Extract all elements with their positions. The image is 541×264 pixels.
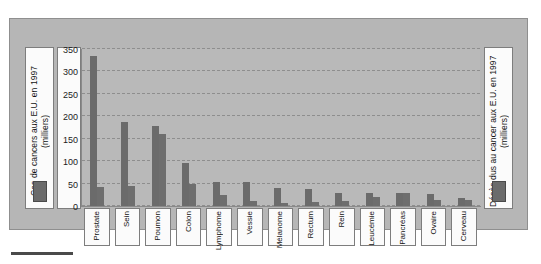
bar-cases <box>182 163 189 206</box>
bar-cases <box>305 189 312 206</box>
x-category-label-text: Rectum <box>306 211 316 239</box>
y-axis-tick-panel: 050100150200250300350 <box>57 47 81 209</box>
x-category-label-text: Colon <box>184 211 194 232</box>
y-tick-label: 100 <box>63 158 78 167</box>
bar-group <box>113 49 144 206</box>
x-category-label: Lymphome <box>206 208 232 246</box>
bar-deaths <box>220 195 227 206</box>
x-category-label: Rectum <box>298 208 324 246</box>
x-category-label-text: Leucémie <box>367 211 377 246</box>
bar-deaths <box>312 202 319 206</box>
bar-group <box>358 49 389 206</box>
legend-cases: Cas de cancers aux E.U. en 1997 (millier… <box>25 47 54 209</box>
bar-deaths <box>250 201 257 206</box>
bar-deaths <box>281 203 288 206</box>
x-category-label-text: Sein <box>122 211 132 227</box>
bar-cases <box>396 193 403 206</box>
bar-cases <box>243 182 250 206</box>
x-category-label-text: Pancréas <box>398 211 408 245</box>
y-tick-label: 200 <box>63 113 78 122</box>
bar-cases <box>458 198 465 206</box>
bar-deaths <box>342 201 349 206</box>
bar-deaths <box>373 197 380 206</box>
x-category-label: Prostate <box>84 208 110 246</box>
x-category-label: Leucémie <box>360 208 386 246</box>
chart-frame: 050100150200250300350 Cas de cancers aux… <box>9 18 528 230</box>
x-category-label-text: Cerveau <box>459 211 469 241</box>
x-category-label: Colon <box>176 208 202 246</box>
x-category-label: Sein <box>115 208 141 246</box>
bar-cases <box>121 122 128 206</box>
bar-group <box>82 49 113 206</box>
x-category-label-text: Rein <box>337 211 347 227</box>
bar-deaths <box>159 134 166 206</box>
y-tick-label: 250 <box>63 90 78 99</box>
x-category-label: Pancréas <box>390 208 416 246</box>
x-category-label: Cerveau <box>451 208 477 246</box>
bar-cases <box>90 56 97 206</box>
bar-group <box>143 49 174 206</box>
bar-cases <box>335 193 342 206</box>
bar-deaths <box>465 200 472 206</box>
bar-deaths <box>189 184 196 206</box>
x-axis-category-labels: ProstateSeinPoumonColonLymphomeVessieMél… <box>82 208 480 246</box>
bar-group <box>235 49 266 206</box>
x-category-label-text: Ovaire <box>429 211 439 235</box>
bar-group <box>449 49 480 206</box>
x-category-label: Ovaire <box>421 208 447 246</box>
y-tick-label: 0 <box>73 203 78 212</box>
bar-group <box>327 49 358 206</box>
bar-group <box>388 49 419 206</box>
x-category-label: Poumon <box>145 208 171 246</box>
x-category-label: Mélanome <box>268 208 294 246</box>
bar-cases <box>366 193 373 206</box>
bar-deaths <box>403 193 410 206</box>
legend-cases-swatch <box>33 181 47 202</box>
legend-deaths: Décès dus au cancer aux E.U. en 1997 (mi… <box>484 47 513 209</box>
bar-deaths <box>97 187 104 206</box>
x-category-label: Rein <box>329 208 355 246</box>
bar-group <box>204 49 235 206</box>
x-category-label-text: Lymphome <box>214 211 224 250</box>
bottom-rule <box>11 252 73 255</box>
x-axis-line <box>81 206 481 207</box>
bar-deaths <box>434 200 441 206</box>
bar-group <box>419 49 450 206</box>
bar-cases <box>427 194 434 206</box>
bar-group <box>266 49 297 206</box>
x-category-label: Vessie <box>237 208 263 246</box>
bar-group <box>296 49 327 206</box>
bar-cases <box>152 126 159 206</box>
x-category-label-text: Prostate <box>92 211 102 241</box>
bar-group <box>174 49 205 206</box>
bar-deaths <box>128 186 135 206</box>
x-category-label-text: Vessie <box>245 211 255 235</box>
bar-cases <box>274 188 281 206</box>
x-category-label-text: Poumon <box>153 211 163 241</box>
bar-cases <box>213 182 220 206</box>
chart-screenshot: 050100150200250300350 Cas de cancers aux… <box>0 0 541 264</box>
legend-deaths-swatch <box>492 181 506 202</box>
y-tick-label: 300 <box>63 68 78 77</box>
bars-layer <box>82 49 480 206</box>
x-category-label-text: Mélanome <box>275 211 285 248</box>
y-tick-label: 350 <box>63 46 78 55</box>
y-tick-label: 50 <box>68 180 78 189</box>
y-tick-label: 150 <box>63 135 78 144</box>
